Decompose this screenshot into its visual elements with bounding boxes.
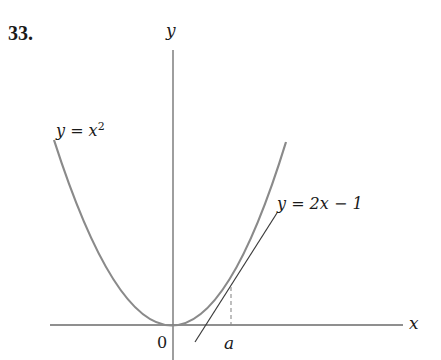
x-axis-label: x [409, 313, 419, 333]
tangent-label: y = 2x − 1 [277, 194, 363, 213]
point-a-label: a [224, 333, 234, 353]
origin-label: 0 [157, 333, 167, 352]
parabola-label: y = x2 [56, 120, 105, 140]
parabola-label-text: y = x [56, 121, 98, 140]
y-axis-label: y [166, 20, 176, 40]
graph [0, 0, 441, 360]
parabola-curve [54, 140, 286, 326]
parabola-label-exponent: 2 [98, 120, 105, 133]
tangent-line [195, 213, 277, 342]
